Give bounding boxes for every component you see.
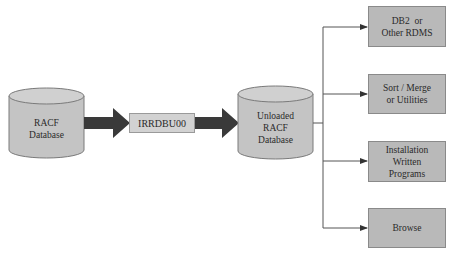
racf-database-label: RACF Database	[9, 112, 84, 146]
label-line: Other RDMS	[382, 27, 433, 39]
fan-out-connectors	[313, 27, 367, 228]
target-sort-merge-box: Sort / Merge or Utilities	[368, 74, 446, 114]
label-line: Database	[29, 129, 64, 141]
label-line: DB2 or	[392, 15, 423, 27]
label-line: or Utilities	[387, 94, 428, 106]
label-line: Programs	[389, 168, 425, 180]
target-browse-box: Browse	[368, 208, 446, 248]
label-line: Database	[258, 134, 293, 146]
unloaded-racf-database-label: Unloaded RACF Database	[238, 106, 313, 150]
arrow-to-irrdbu00	[84, 108, 130, 138]
label-line: Browse	[392, 222, 421, 234]
target-installation-programs-box: Installation Written Programs	[368, 141, 446, 182]
label-line: Sort / Merge	[383, 82, 431, 94]
irrdbu00-process-box: IRRDBU00	[129, 113, 195, 133]
label-line: Installation	[386, 144, 429, 156]
label-line: RACF	[34, 117, 59, 129]
label-line: RACF	[263, 122, 288, 134]
target-db2-box: DB2 or Other RDMS	[368, 6, 446, 47]
irrdbu00-label: IRRDBU00	[138, 118, 186, 129]
label-line: Unloaded	[257, 110, 294, 122]
label-line: Written	[393, 156, 422, 168]
arrow-to-unloaded-db	[194, 108, 239, 138]
